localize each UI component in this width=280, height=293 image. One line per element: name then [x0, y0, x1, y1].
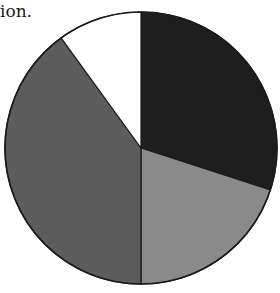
pie-chart — [0, 0, 280, 293]
pie-slices — [5, 12, 277, 284]
page: ion. — [0, 0, 280, 293]
